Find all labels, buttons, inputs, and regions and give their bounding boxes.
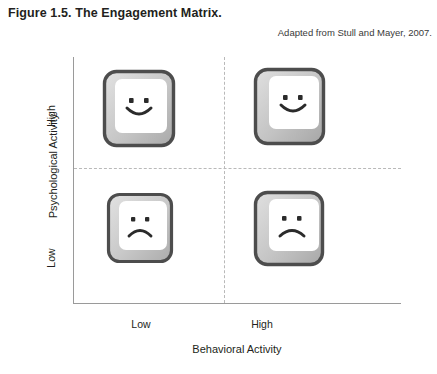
x-axis-tick-high: High (222, 318, 302, 330)
quadrant-divider-horizontal (74, 168, 401, 169)
quadrant-icon-low-high (102, 69, 176, 148)
y-axis-tick-low: Low (45, 238, 57, 278)
engagement-matrix-figure: Figure 1.5. The Engagement Matrix. Adapt… (0, 0, 437, 374)
quadrant-icon-high-low (253, 190, 325, 267)
y-axis-tick-high: High (45, 96, 57, 136)
y-axis-line (73, 57, 74, 304)
quadrant-icon-low-low (106, 192, 174, 264)
quadrant-divider-vertical (224, 57, 225, 303)
figure-credit: Adapted from Stull and Mayer, 2007. (278, 27, 432, 38)
figure-title: Figure 1.5. The Engagement Matrix. (8, 6, 222, 20)
quadrant-icon-high-high (253, 67, 326, 146)
x-axis-tick-low: Low (101, 318, 181, 330)
x-axis-title: Behavioral Activity (73, 343, 401, 355)
x-axis-line (73, 303, 401, 304)
